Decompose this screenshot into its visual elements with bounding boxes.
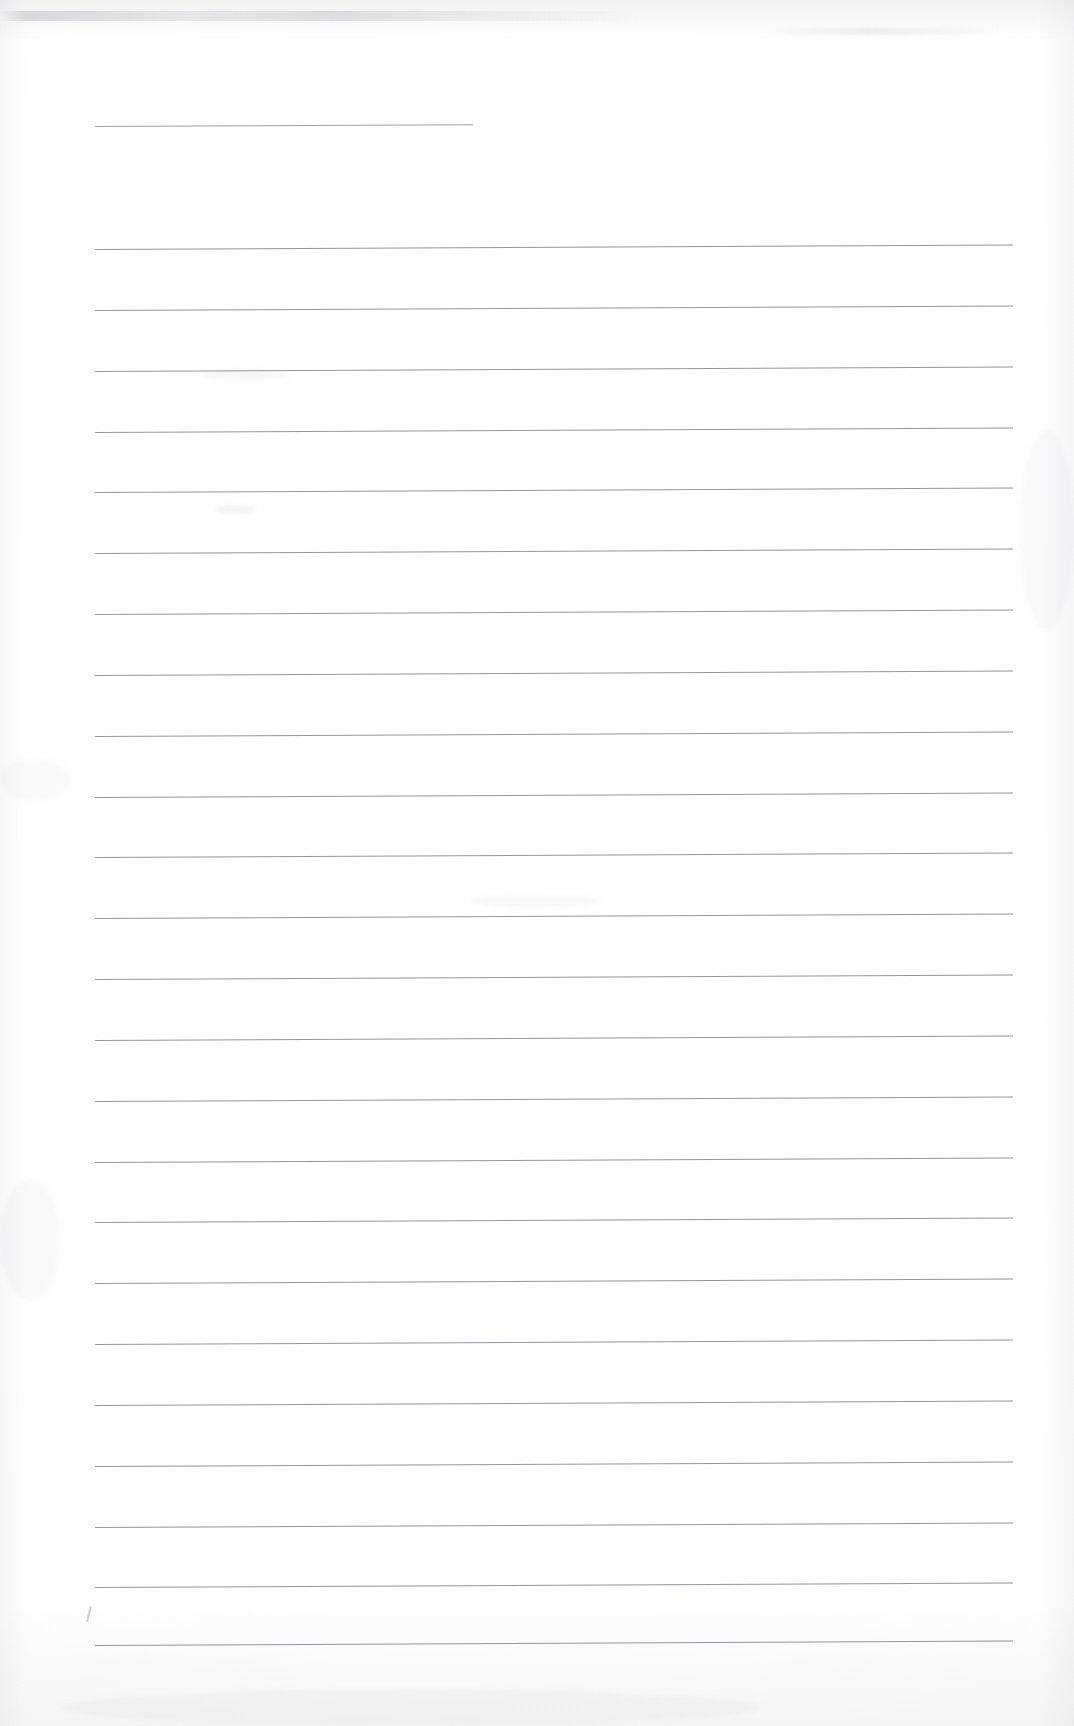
scanned-page xyxy=(0,0,1074,1726)
paper-sheet xyxy=(0,0,1074,1726)
